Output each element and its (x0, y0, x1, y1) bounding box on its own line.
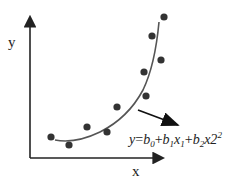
data-point (148, 32, 155, 39)
data-point (142, 92, 149, 99)
data-point (47, 133, 54, 140)
data-point (113, 103, 120, 110)
data-point (140, 68, 147, 75)
data-point (103, 128, 110, 135)
eq-b1: b (163, 132, 170, 147)
annotation-arrow (138, 110, 178, 125)
regression-diagram (0, 0, 239, 185)
eq-b2: b (193, 132, 200, 147)
eq-plus: + (185, 132, 193, 147)
data-point (160, 13, 167, 20)
y-axis-label: y (8, 34, 16, 51)
data-point (83, 123, 90, 130)
eq-x2: x2 (204, 132, 217, 147)
eq-x2-sup: 2 (217, 130, 222, 140)
eq-equals: = (135, 132, 143, 147)
x-axis-label: x (132, 163, 140, 180)
eq-plus: + (155, 132, 163, 147)
regression-equation: y=b0+b1x1+b2x22 (129, 130, 222, 149)
data-point (157, 56, 164, 63)
data-point (65, 141, 72, 148)
fit-curve (55, 22, 159, 141)
